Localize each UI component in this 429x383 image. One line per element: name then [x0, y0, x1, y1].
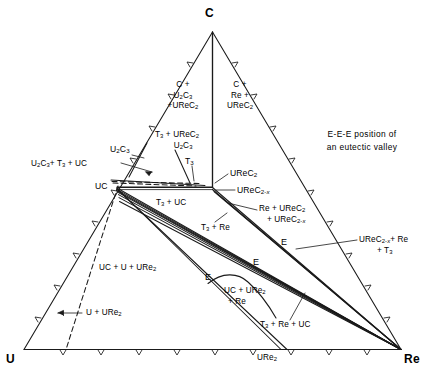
region-label-C-U2C3-UReC2: C + U2C3 +UReC2: [159, 80, 207, 112]
leader-lines: [58, 155, 357, 320]
region-label-Re-UReC2-UReC2x: Re + UReC2 + UReC2-x: [259, 204, 305, 226]
region-label-UC-U-URe2: UC + U + URe2: [99, 263, 156, 274]
eutectic-valley-annotation: E-E-E position of an eutectic valley: [299, 128, 425, 153]
line: U + URe2: [86, 308, 122, 317]
eutectic-marker-E-1: E: [281, 237, 287, 249]
line: U2C3: [159, 91, 207, 102]
line: UReC2: [216, 101, 264, 112]
diagram-canvas: [0, 0, 429, 383]
line: C +: [159, 80, 207, 91]
node-label-UC: UC: [95, 181, 108, 192]
region-label-T3-Re: T3 + Re: [201, 223, 230, 234]
region-label-T3-UReC2-U2C3: T3 + UReC2 U2C3: [155, 130, 199, 152]
annotation-line-1: E-E-E position of: [299, 128, 425, 141]
region-label-U-URe2: U + URe2: [86, 308, 122, 319]
region-label-T3-UC: T3 + UC: [156, 198, 186, 209]
line: UReC2-x+ Re: [359, 235, 408, 246]
line: T3 + Re + UC: [260, 320, 310, 329]
node-label-U2C3: U2C3: [110, 144, 130, 155]
line: T3 + Re: [201, 223, 230, 232]
line: UC + U + URe2: [99, 263, 156, 272]
line: Re + UReC2: [259, 204, 305, 215]
line: + T3: [359, 246, 408, 257]
line: + UReC2-x: [259, 215, 305, 226]
line: C +: [216, 80, 264, 91]
node-label-T3: T3: [185, 156, 194, 167]
annotation-line-2: an eutectic valley: [299, 141, 425, 154]
line: Re +: [216, 91, 264, 102]
vertex-label-C: C: [205, 6, 214, 20]
region-label-UReC2x-Re-T3: UReC2-x+ Re + T3: [359, 235, 408, 257]
edge-label-URe2: URe2: [257, 353, 277, 364]
line: + Re: [224, 297, 266, 308]
node-label-UReC2: UReC2: [230, 168, 257, 179]
ternary-phase-diagram: C U Re URe2 E-E-E position of an eutecti…: [0, 0, 429, 383]
region-label-UC-URe2-Re: UC + URe2 + Re: [224, 286, 266, 307]
line: U2C3: [155, 141, 199, 152]
vertex-label-Re: Re: [404, 352, 420, 366]
tieline-UC-UReC2: [117, 187, 213, 189]
region-label-C-Re-UReC2: C + Re + UReC2: [216, 80, 264, 112]
region-label-U2C3-T3-UC: U2C3+ T3 + UC: [31, 159, 87, 170]
eutectic-marker-E-3: E: [205, 272, 211, 284]
region-label-T3-Re-UC: T3 + Re + UC: [260, 320, 310, 331]
line: UC + URe2: [224, 286, 266, 297]
line: +UReC2: [159, 101, 207, 112]
line: T3 + UReC2: [155, 130, 199, 141]
line: U2C3+ T3 + UC: [31, 159, 87, 168]
vertex-label-U: U: [6, 352, 15, 366]
eutectic-marker-E-2: E: [253, 257, 259, 269]
node-label-UReC2-x: UReC2-x: [237, 185, 270, 196]
line: T3 + UC: [156, 198, 186, 207]
